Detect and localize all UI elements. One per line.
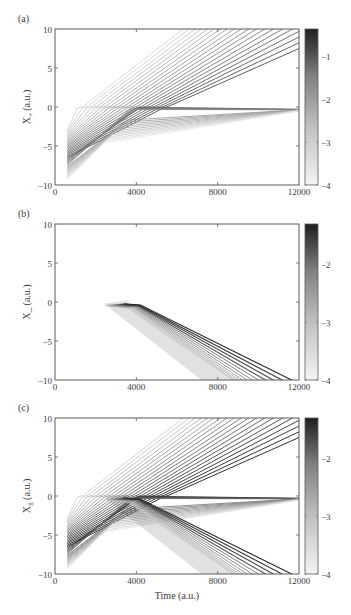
y-axis-label-subscript: + [26, 113, 35, 117]
x-tick-label: 12000 [288, 382, 311, 392]
y-tick-label: −10 [38, 181, 53, 191]
plot-lines [104, 300, 295, 381]
colorbar [305, 224, 318, 380]
y-axis-label-subscript: ± [26, 502, 35, 506]
axes: 04000800012000−10−50510 [38, 414, 311, 587]
panel-a: (a) 04000800012000−10−50510 X+(a.u.) −1−… [18, 0, 331, 197]
figure: (a) 04000800012000−10−50510 X+(a.u.) −1−… [0, 0, 351, 615]
y-tick-label: 10 [43, 220, 53, 230]
y-tick-label: 10 [43, 25, 53, 35]
trajectory-line [67, 26, 299, 153]
y-tick-label: 5 [48, 453, 53, 463]
axes: 04000800012000−10−50510 [38, 220, 311, 393]
x-tick-label: 8000 [209, 187, 228, 197]
plot-frame [55, 29, 299, 185]
trajectory-line [67, 386, 299, 534]
x-tick-label: 4000 [127, 576, 146, 586]
y-axis-label-units: (a.u.) [21, 284, 33, 305]
trajectory-line [67, 0, 299, 130]
y-tick-label: 0 [48, 103, 53, 113]
y-tick-label: 5 [48, 259, 53, 269]
x-tick-label: 4000 [127, 187, 146, 197]
x-tick-label: 0 [53, 382, 58, 392]
x-tick-label: 12000 [288, 576, 311, 586]
colorbar [305, 29, 318, 185]
colorbar-tick-label: −2 [321, 454, 331, 464]
colorbar-tick-label: −4 [321, 376, 331, 386]
y-axis-label-units: (a.u.) [21, 90, 33, 111]
panel-label: (a) [18, 13, 29, 25]
y-tick-label: −5 [42, 531, 52, 541]
colorbar-tick-label: −3 [321, 138, 331, 148]
colorbar-tick-label: −4 [321, 570, 331, 580]
colorbar-tick-label: −1 [321, 52, 331, 62]
y-axis-label: X±(a.u.) [21, 479, 35, 513]
colorbar-tick-label: −2 [321, 95, 331, 105]
x-tick-label: 0 [53, 576, 58, 586]
y-axis-label-units: (a.u.) [21, 479, 33, 500]
y-tick-label: −5 [42, 142, 52, 152]
x-axis-label: Time (a.u.) [155, 590, 199, 602]
y-tick-label: 10 [43, 414, 53, 424]
colorbar-tick-label: −2 [321, 260, 331, 270]
panel-label: (c) [18, 402, 29, 414]
y-tick-label: 5 [48, 64, 53, 74]
panel-b: (b) 04000800012000−10−50510 X_(a.u.) −2−… [18, 208, 331, 392]
y-tick-label: −10 [38, 376, 53, 386]
y-axis-label: X_(a.u.) [21, 284, 33, 319]
x-tick-label: 8000 [209, 382, 228, 392]
y-axis-label: X+(a.u.) [21, 90, 35, 125]
y-tick-label: 0 [48, 492, 53, 502]
plot-lines [67, 0, 299, 179]
colorbar-tick-label: −4 [321, 181, 331, 191]
x-tick-label: 4000 [127, 382, 146, 392]
x-tick-label: 12000 [288, 187, 311, 197]
panel-c: (c) 04000800012000−10−50510 X±(a.u.) −2−… [18, 328, 331, 586]
colorbar [305, 418, 318, 574]
colorbar-tick-label: −3 [321, 318, 331, 328]
y-tick-label: −5 [42, 337, 52, 347]
y-axis-label-main: X_ [21, 306, 32, 319]
colorbar-tick-label: −3 [321, 512, 331, 522]
y-tick-label: 0 [48, 298, 53, 308]
x-tick-label: 0 [53, 187, 58, 197]
trajectory-line [67, 20, 299, 151]
axes: 04000800012000−10−50510 [38, 25, 311, 198]
y-tick-label: −10 [38, 570, 53, 580]
x-tick-label: 8000 [209, 576, 228, 586]
panel-label: (b) [18, 208, 30, 220]
